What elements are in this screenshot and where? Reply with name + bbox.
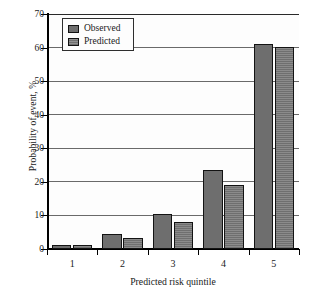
y-axis-tick-label: 60 [4,43,44,53]
bar-predicted-q3 [174,222,194,249]
x-axis-tick [299,249,300,255]
bar-predicted-q5 [275,47,295,249]
legend-swatch-predicted-icon [68,38,79,46]
x-axis-tick-label: 3 [153,258,193,270]
y-axis-tick-label: 40 [4,110,44,120]
bar-chart-figure: Probability of event, % 010203040506070 … [0,0,312,294]
x-axis-tick [198,249,199,255]
bar-predicted-q1 [73,245,93,249]
gridline [47,14,299,16]
legend-label-observed: Observed [84,23,120,34]
bar-observed-q5 [254,44,274,249]
y-axis-tick-label: 0 [4,244,44,254]
legend-item-predicted: Predicted [68,35,133,48]
legend-label-predicted: Predicted [84,36,120,47]
bar-observed-q1 [52,245,72,249]
y-axis-tick-label: 10 [4,210,44,220]
bar-predicted-q2 [123,238,143,249]
y-axis-tick-label: 30 [4,143,44,153]
x-axis-tick [47,249,48,255]
x-axis-tick [97,249,98,255]
x-axis-tick-label: 4 [203,258,243,270]
bar-predicted-q4 [224,185,244,249]
x-axis-tick [249,249,250,255]
x-axis-tick-label: 2 [103,258,143,270]
y-axis-tick-label: 50 [4,76,44,86]
y-axis-tick-label: 20 [4,177,44,187]
y-axis-title: Probability of event, % [28,36,38,216]
y-axis-tick-label: 70 [4,9,44,19]
x-axis-title: Predicted risk quintile [47,276,299,287]
legend-item-observed: Observed [68,22,133,35]
x-axis-tick-label: 1 [52,258,92,270]
bar-observed-q2 [102,234,122,249]
legend-swatch-observed-icon [68,25,79,33]
bar-observed-q4 [203,170,223,249]
chart-legend: Observed Predicted [62,18,134,51]
bar-observed-q3 [153,214,173,249]
y-axis-line [47,13,49,250]
x-axis-tick [148,249,149,255]
x-axis-tick-label: 5 [254,258,294,270]
